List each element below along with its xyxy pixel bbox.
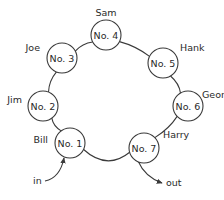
- node-n3: No. 3Joe: [25, 42, 77, 73]
- node-n6: No. 6George: [173, 89, 224, 121]
- node-n2: No. 2Jim: [6, 91, 58, 121]
- edge-n5-n6: [171, 76, 181, 93]
- edge-n7-n1: [83, 149, 130, 161]
- node-person-name: George: [202, 89, 224, 100]
- edge-n4-n5: [119, 42, 149, 57]
- entry-label: in: [33, 175, 42, 186]
- node-n5: No. 5Hank: [148, 42, 205, 78]
- node-person-name: Harry: [163, 129, 190, 140]
- edge-n3-n4: [75, 42, 92, 51]
- node-person-name: Sam: [95, 7, 116, 18]
- node-n1: No. 1Bill: [34, 128, 85, 158]
- node-number-label: No. 1: [58, 138, 83, 149]
- exit-arrow: [138, 161, 162, 183]
- node-person-name: Joe: [25, 42, 41, 53]
- node-person-name: Jim: [6, 94, 22, 105]
- node-number-label: No. 3: [50, 53, 75, 64]
- node-number-label: No. 7: [132, 143, 157, 154]
- node-number-label: No. 4: [94, 30, 119, 41]
- node-number-label: No. 2: [31, 101, 56, 112]
- node-person-name: Bill: [34, 134, 48, 145]
- edge-n2-n3: [49, 72, 57, 92]
- entry-arrow: [45, 158, 64, 181]
- edge-n1-n2: [52, 118, 61, 131]
- node-person-name: Hank: [180, 42, 205, 53]
- node-n4: No. 4Sam: [91, 7, 121, 50]
- nodes: No. 1BillNo. 2JimNo. 3JoeNo. 4SamNo. 5Ha…: [6, 7, 224, 163]
- exit-label: out: [166, 177, 182, 188]
- node-number-label: No. 6: [176, 101, 201, 112]
- node-number-label: No. 5: [151, 58, 176, 69]
- ring-diagram: in out No. 1BillNo. 2JimNo. 3JoeNo. 4Sam…: [0, 0, 224, 200]
